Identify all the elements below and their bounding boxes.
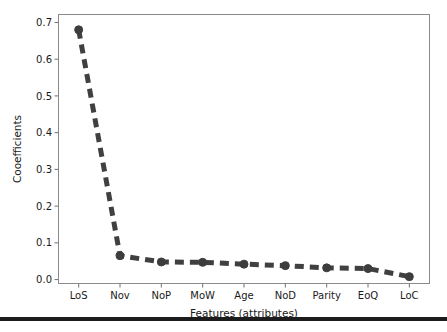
x-tick-label: NoP: [152, 290, 172, 301]
data-point-marker: [75, 26, 83, 34]
data-point-marker: [240, 260, 248, 268]
data-point-marker: [199, 258, 207, 266]
data-point-marker: [281, 262, 289, 270]
y-tick-label: 0.4: [36, 127, 52, 138]
y-axis-ticks: [55, 22, 59, 279]
x-tick-label: LoC: [400, 290, 419, 301]
y-tick-label: 0.2: [36, 201, 52, 212]
coefficients-line-chart: 0.00.10.20.30.40.50.60.7 LoSNovNoPMoWAge…: [0, 0, 447, 332]
x-tick-label: LoS: [70, 290, 88, 301]
y-tick-label: 0.6: [36, 54, 52, 65]
y-axis-tick-labels: 0.00.10.20.30.40.50.60.7: [36, 17, 52, 285]
data-point-marker: [405, 273, 413, 281]
x-tick-label: MoW: [190, 290, 215, 301]
x-tick-label: Nov: [110, 290, 130, 301]
x-tick-label: Parity: [312, 290, 341, 301]
y-tick-label: 0.3: [36, 164, 52, 175]
plot-area-background: [58, 14, 430, 284]
data-point-marker: [116, 252, 124, 260]
x-tick-label: Age: [234, 290, 253, 301]
bottom-divider-rule: [0, 317, 447, 321]
data-point-marker: [157, 258, 165, 266]
y-tick-label: 0.0: [36, 274, 52, 285]
y-tick-label: 0.5: [36, 91, 52, 102]
data-point-marker: [364, 265, 372, 273]
data-point-marker: [323, 264, 331, 272]
y-axis-title: Cooefficients: [11, 115, 23, 183]
figure-canvas: 0.00.10.20.30.40.50.60.7 LoSNovNoPMoWAge…: [0, 0, 447, 332]
y-tick-label: 0.7: [36, 17, 52, 28]
y-tick-label: 0.1: [36, 237, 52, 248]
x-tick-label: NoD: [275, 290, 297, 301]
x-axis-tick-labels: LoSNovNoPMoWAgeNoDParityEoQLoC: [70, 290, 419, 301]
x-tick-label: EoQ: [358, 290, 378, 301]
x-axis-ticks: [79, 284, 410, 288]
